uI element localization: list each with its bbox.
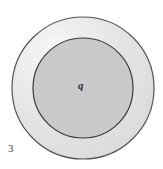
figure-number-label: 3	[8, 142, 14, 154]
charged-sphere-diagram: q 3	[0, 0, 163, 169]
charge-label: q	[78, 79, 84, 91]
